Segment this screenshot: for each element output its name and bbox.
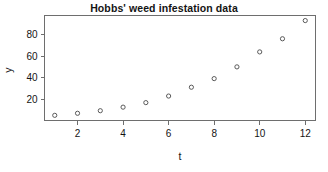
data-point	[144, 101, 148, 105]
data-point-series	[53, 18, 308, 117]
y-tick-label: 40	[26, 72, 38, 83]
x-axis-tick-labels: 24681012	[75, 128, 312, 139]
y-tick-label: 80	[26, 29, 38, 40]
y-axis-ticks	[41, 35, 45, 100]
x-axis-ticks	[78, 121, 306, 125]
x-tick-label: 6	[166, 128, 172, 139]
y-axis-tick-labels: 20406080	[26, 29, 38, 105]
data-point	[53, 113, 57, 117]
x-tick-label: 4	[120, 128, 126, 139]
data-point	[235, 65, 239, 69]
data-point	[75, 111, 79, 115]
data-point	[280, 37, 284, 41]
x-tick-label: 8	[211, 128, 217, 139]
data-point	[98, 109, 102, 113]
data-point	[212, 77, 216, 81]
data-point	[258, 50, 262, 54]
x-tick-label: 12	[300, 128, 312, 139]
y-tick-label: 20	[26, 94, 38, 105]
y-axis-title: y	[2, 67, 14, 73]
plot-frame	[45, 16, 316, 121]
x-tick-label: 2	[75, 128, 81, 139]
scatter-plot-canvas: 20406080 24681012 t y	[0, 0, 328, 172]
data-point	[121, 105, 125, 109]
y-tick-label: 60	[26, 51, 38, 62]
x-axis-title: t	[179, 150, 182, 162]
chart-figure: Hobbs' weed infestation data 20406080 24…	[0, 0, 328, 172]
data-point	[167, 94, 171, 98]
data-point	[303, 18, 307, 22]
x-tick-label: 10	[254, 128, 266, 139]
data-point	[189, 85, 193, 89]
